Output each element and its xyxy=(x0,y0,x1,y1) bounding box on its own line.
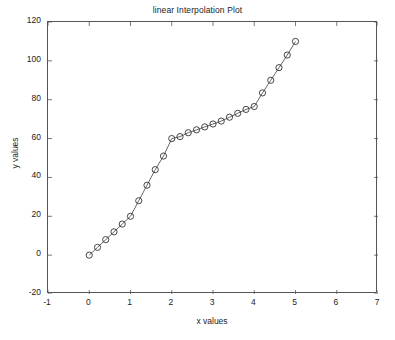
x-tick-label: 6 xyxy=(324,297,348,307)
chart-title: linear Interpolation Plot xyxy=(0,5,395,15)
plot-area xyxy=(47,21,377,293)
x-tick-label: 0 xyxy=(76,297,100,307)
y-tick-label: 80 xyxy=(7,93,41,103)
x-tick-label: 2 xyxy=(159,297,183,307)
x-axis-label: x values xyxy=(47,316,377,326)
data-line xyxy=(89,41,295,255)
y-tick-label: -20 xyxy=(7,287,41,297)
y-axis-label: y values xyxy=(10,113,20,193)
y-tick-label: 20 xyxy=(7,209,41,219)
data-markers xyxy=(86,38,298,258)
tick-marks xyxy=(48,22,378,294)
y-tick-label: 120 xyxy=(7,15,41,25)
y-tick-label: 100 xyxy=(7,54,41,64)
figure-canvas: linear Interpolation Plot -2002040608010… xyxy=(0,0,395,340)
x-tick-label: -1 xyxy=(35,297,59,307)
x-tick-label: 7 xyxy=(365,297,389,307)
y-tick-label: 0 xyxy=(7,248,41,258)
x-tick-label: 1 xyxy=(118,297,142,307)
x-tick-label: 5 xyxy=(283,297,307,307)
plot-svg xyxy=(48,22,378,294)
x-tick-label: 3 xyxy=(200,297,224,307)
x-tick-label: 4 xyxy=(241,297,265,307)
